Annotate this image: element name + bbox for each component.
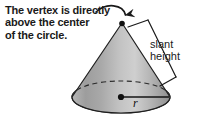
radius-label: r (133, 96, 138, 111)
base-center-dot (118, 94, 124, 100)
vertex-callout-text: The vertex is directly above the center … (5, 4, 113, 41)
slant-height-label: slant height (150, 38, 180, 63)
vertex-dot (119, 21, 125, 27)
